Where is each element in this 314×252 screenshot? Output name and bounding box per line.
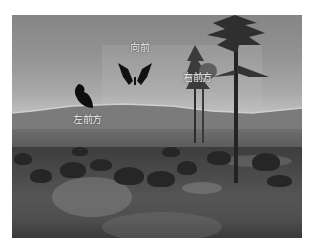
bush — [114, 167, 144, 185]
bush — [90, 159, 112, 171]
label-left-front: 左前方 — [73, 114, 102, 126]
bush — [72, 147, 88, 156]
bush — [147, 171, 175, 187]
butterfly-left-front[interactable] — [73, 84, 95, 110]
bush — [30, 169, 52, 183]
bush — [162, 147, 180, 157]
bush — [14, 153, 32, 165]
tall-pine-tree — [197, 15, 277, 185]
butterfly-forward[interactable] — [118, 63, 152, 87]
bush — [60, 162, 86, 178]
label-right-front: 右前方 — [183, 72, 212, 84]
ground-light-patch — [102, 212, 222, 238]
label-forward: 向前 — [130, 42, 149, 54]
bush — [177, 161, 197, 175]
game-viewport[interactable]: 向前 右前方 左前方 — [12, 15, 302, 238]
